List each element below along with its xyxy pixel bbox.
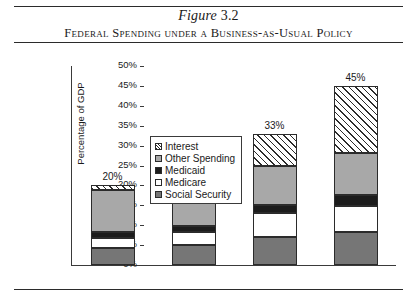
- legend-item[interactable]: Interest: [155, 140, 235, 152]
- legend-swatch-icon: [155, 155, 162, 162]
- bar-segment[interactable]: [91, 248, 135, 265]
- legend-item[interactable]: Other Spending: [155, 152, 235, 164]
- bar-segment[interactable]: [172, 245, 216, 265]
- bar-segment[interactable]: [334, 195, 378, 206]
- figure-number: Figure 3.2: [0, 8, 417, 24]
- bar-segment[interactable]: [253, 237, 297, 265]
- legend-swatch-icon: [155, 179, 162, 186]
- bar-segment[interactable]: [172, 226, 216, 232]
- figure-number-value: 3.2: [221, 8, 239, 23]
- y-axis-tick-mark: [140, 106, 144, 107]
- bar-group[interactable]: 45%: [334, 66, 378, 265]
- y-axis-tick-mark: [140, 205, 144, 206]
- bar-segment[interactable]: [334, 206, 378, 232]
- plot-area: Percentage of GDP 0%5%10%15%20%25%30%35%…: [72, 66, 396, 265]
- bar-segment[interactable]: [334, 153, 378, 196]
- legend-item-label: Medicare: [165, 177, 206, 188]
- bar-segment[interactable]: [334, 232, 378, 265]
- y-axis-tick-mark: [140, 185, 144, 186]
- legend-item-label: Other Spending: [165, 153, 235, 164]
- legend-item-label: Medicaid: [165, 165, 205, 176]
- bar-segment[interactable]: [91, 185, 135, 190]
- y-axis-tick-mark: [140, 166, 144, 167]
- bar-segment[interactable]: [91, 190, 135, 232]
- legend-swatch-icon: [155, 167, 162, 174]
- footer-rule: [14, 289, 403, 290]
- figure-title: Federal Spending under a Business-as-Usu…: [0, 26, 417, 41]
- legend-swatch-icon: [155, 143, 162, 150]
- bar-group[interactable]: 33%: [253, 66, 297, 265]
- legend-item-label: Interest: [165, 141, 198, 152]
- bar-total-label: 33%: [243, 120, 307, 131]
- y-axis-label: Percentage of GDP: [75, 64, 86, 184]
- bar-segment[interactable]: [172, 232, 216, 245]
- header-rule-mid: [14, 42, 403, 43]
- y-axis-tick-mark: [140, 265, 144, 266]
- y-axis-tick-mark: [140, 66, 144, 67]
- bar-segment[interactable]: [253, 213, 297, 237]
- y-axis-tick-mark: [140, 225, 144, 226]
- legend-item[interactable]: Medicare: [155, 176, 235, 188]
- chart-legend: InterestOther SpendingMedicaidMedicareSo…: [150, 136, 242, 204]
- bar-segment[interactable]: [91, 232, 135, 238]
- figure-number-prefix: Figure: [178, 8, 217, 23]
- figure-container: Figure 3.2 Federal Spending under a Busi…: [0, 0, 417, 300]
- bar-segment[interactable]: [253, 205, 297, 214]
- y-axis-tick-mark: [140, 126, 144, 127]
- legend-swatch-icon: [155, 191, 162, 198]
- bar-segment[interactable]: [334, 86, 378, 153]
- bar-segment[interactable]: [253, 134, 297, 166]
- bar-segment[interactable]: [253, 166, 297, 205]
- bar-group[interactable]: 20%: [91, 66, 135, 265]
- y-axis-tick-mark: [140, 245, 144, 246]
- bar-total-label: 45%: [324, 72, 388, 83]
- x-axis-line: [71, 265, 396, 266]
- legend-item[interactable]: Medicaid: [155, 164, 235, 176]
- legend-item-label: Social Security: [165, 189, 231, 200]
- y-axis-tick-mark: [140, 146, 144, 147]
- header-rule-top: [14, 6, 403, 7]
- bar-segment[interactable]: [91, 238, 135, 248]
- bar-total-label: 20%: [81, 171, 145, 182]
- y-axis-tick-mark: [140, 86, 144, 87]
- legend-item[interactable]: Social Security: [155, 188, 235, 200]
